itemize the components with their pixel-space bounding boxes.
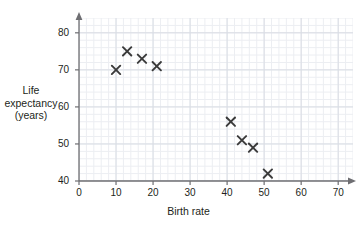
x-tick-label: 60	[289, 187, 313, 198]
y-tick-label: 50	[47, 138, 69, 149]
x-tick-label: 70	[326, 187, 350, 198]
x-tick-label: 0	[67, 187, 91, 198]
x-tick-label: 10	[104, 187, 128, 198]
axis-ticks	[75, 33, 338, 185]
y-tick-label: 40	[47, 175, 69, 186]
data-point-marker	[138, 55, 146, 63]
x-tick-label: 20	[141, 187, 165, 198]
y-axis-title-line-2: expectancy	[0, 97, 62, 110]
x-axis-title-text: Birth rate	[167, 205, 210, 217]
data-point-marker	[153, 62, 161, 70]
y-tick-label: 70	[47, 64, 69, 75]
data-points	[112, 47, 272, 178]
y-axis-title: Life expectancy (years)	[0, 84, 62, 122]
y-tick-label: 80	[47, 27, 69, 38]
grid-minor	[79, 18, 353, 181]
data-point-marker	[123, 47, 131, 55]
y-axis-title-line-3: (years)	[0, 109, 62, 122]
x-tick-label: 50	[252, 187, 276, 198]
data-point-marker	[249, 143, 257, 151]
x-axis-title: Birth rate	[0, 205, 359, 217]
scatter-chart-figure: 4050607080 010203040506070 Life expectan…	[0, 0, 359, 226]
y-axis-title-line-1: Life	[0, 84, 62, 97]
x-tick-label: 40	[215, 187, 239, 198]
x-tick-label: 30	[178, 187, 202, 198]
